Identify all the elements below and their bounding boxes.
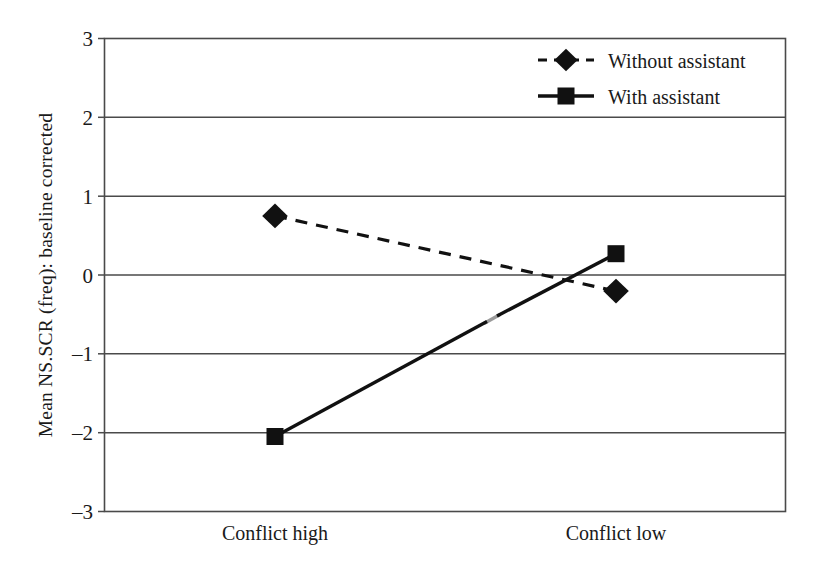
y-tick-label-minus3: –3: [71, 500, 93, 524]
y-tick-label-3: 3: [83, 27, 94, 51]
chart-svg: 3 2 1 0 –1 –2 –3 Mean NS.SCR (freq): bas…: [0, 0, 825, 571]
y-tick-label-2: 2: [83, 106, 94, 130]
legend-entry-without-assistant[interactable]: Without assistant: [538, 49, 746, 72]
legend-entry-with-assistant[interactable]: With assistant: [538, 86, 720, 108]
y-tick-label-1: 1: [83, 185, 94, 209]
x-category-label-conflict-high: Conflict high: [222, 522, 328, 545]
y-tick-label-minus2: –2: [71, 421, 93, 445]
y-tick-label-minus1: –1: [71, 342, 93, 366]
chart-figure: 3 2 1 0 –1 –2 –3 Mean NS.SCR (freq): bas…: [0, 0, 825, 571]
y-tick-label-0: 0: [83, 264, 94, 288]
legend-label-with-assistant: With assistant: [608, 86, 720, 108]
datapoint-with-assistant-conflict-low: [608, 245, 625, 262]
y-axis-label: Mean NS.SCR (freq): baseline corrected: [35, 113, 57, 437]
x-category-label-conflict-low: Conflict low: [566, 522, 667, 544]
datapoint-with-assistant-conflict-high: [267, 428, 284, 445]
legend-label-without-assistant: Without assistant: [608, 50, 746, 72]
legend-square-marker-icon: [558, 88, 575, 105]
